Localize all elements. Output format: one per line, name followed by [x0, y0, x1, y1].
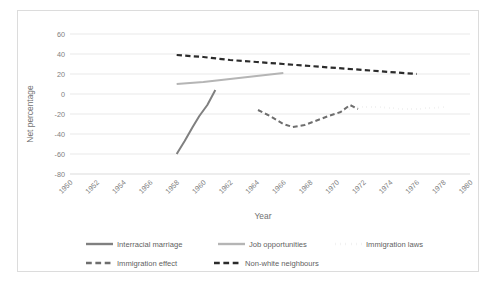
legend-item[interactable]: Immigration laws — [335, 240, 423, 249]
series-line-4 — [177, 55, 417, 74]
x-tick-label: 1980 — [457, 178, 475, 196]
x-tick-label: 1974 — [377, 178, 395, 196]
y-axis-tick-labels: 6040200-20-40-60-80 — [55, 30, 65, 179]
series-line-1 — [177, 73, 284, 84]
y-tick-label: 20 — [57, 70, 65, 79]
series-line-0 — [177, 90, 216, 154]
x-tick-label: 1972 — [350, 178, 368, 196]
x-tick-label: 1960 — [190, 178, 208, 196]
legend-label: Job opportunities — [249, 240, 307, 249]
legend-item[interactable]: Job opportunities — [218, 240, 307, 249]
chart-legend: Interracial marriageJob opportunitiesImm… — [86, 240, 423, 268]
y-tick-label: -20 — [55, 110, 65, 119]
y-tick-label: 60 — [57, 30, 65, 39]
legend-item[interactable]: Non-white neighbours — [214, 259, 319, 268]
legend-item[interactable]: Immigration effect — [86, 259, 178, 268]
x-tick-label: 1964 — [243, 178, 261, 196]
x-tick-label: 1956 — [137, 178, 155, 196]
legend-label: Interracial marriage — [117, 240, 182, 249]
x-tick-label: 1978 — [430, 178, 448, 196]
legend-label: Non-white neighbours — [245, 259, 319, 268]
x-axis-title: Year — [255, 211, 272, 221]
legend-item[interactable]: Interracial marriage — [86, 240, 182, 249]
x-tick-label: 1950 — [57, 178, 75, 196]
x-tick-label: 1968 — [297, 178, 315, 196]
y-tick-label: 40 — [57, 50, 65, 59]
y-tick-label: -60 — [55, 150, 65, 159]
y-tick-label: 0 — [61, 90, 65, 99]
line-chart-plot: 6040200-20-40-60-80 19501952195419561958… — [18, 11, 478, 271]
legend-label: Immigration effect — [117, 259, 178, 268]
y-tick-label: -40 — [55, 130, 65, 139]
y-tick-label: -80 — [55, 170, 65, 179]
series-line-2 — [345, 107, 446, 110]
x-tick-label: 1962 — [217, 178, 235, 196]
chart-container: 6040200-20-40-60-80 19501952195419561958… — [17, 10, 479, 272]
gridlines — [70, 34, 470, 174]
x-tick-label: 1952 — [83, 178, 101, 196]
x-tick-label: 1954 — [110, 178, 128, 196]
x-axis-tick-labels: 1950195219541956195819601962196419661968… — [57, 178, 475, 196]
x-tick-label: 1970 — [323, 178, 341, 196]
y-axis-title: Net percentage — [25, 85, 35, 143]
legend-label: Immigration laws — [366, 240, 423, 249]
x-tick-label: 1958 — [163, 178, 181, 196]
data-series-group — [177, 55, 446, 154]
x-tick-label: 1966 — [270, 178, 288, 196]
series-line-3 — [258, 105, 358, 127]
x-tick-label: 1976 — [403, 178, 421, 196]
